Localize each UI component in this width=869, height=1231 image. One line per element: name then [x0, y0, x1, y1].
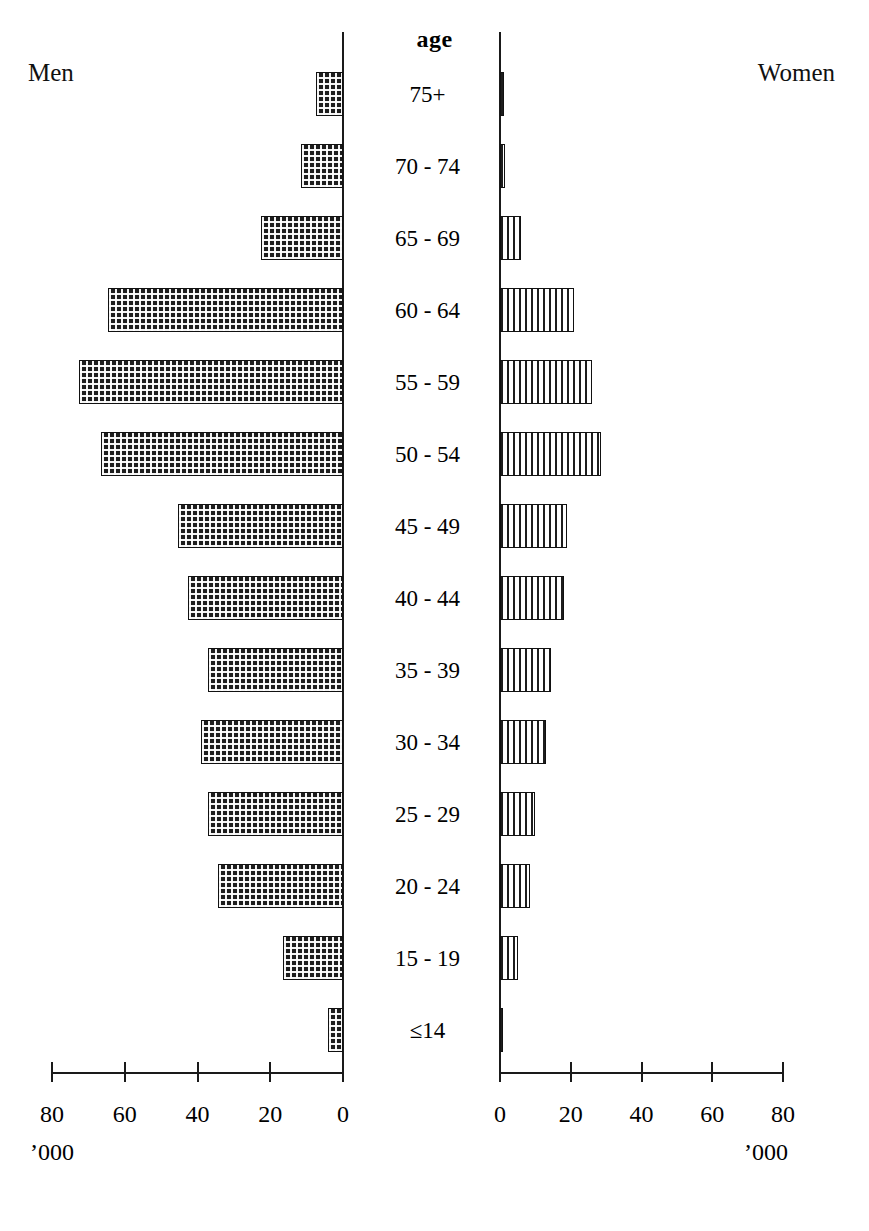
men-axis-tick: [197, 1062, 199, 1082]
age-group-label: ≤14: [355, 1019, 500, 1042]
age-group-label: 15 - 19: [355, 947, 500, 970]
pyramid-row: 35 - 39: [0, 634, 869, 706]
age-group-label: 45 - 49: [355, 515, 500, 538]
women-bar: [500, 504, 567, 548]
age-group-label: 55 - 59: [355, 371, 500, 394]
men-bar: [188, 576, 343, 620]
age-group-label: 50 - 54: [355, 443, 500, 466]
women-bar: [500, 72, 504, 116]
men-axis-tick-label: 80: [40, 1102, 64, 1126]
women-bar: [500, 720, 546, 764]
women-axis-tick: [570, 1062, 572, 1082]
women-axis-tick: [782, 1062, 784, 1082]
women-axis-tick-label: 0: [494, 1102, 506, 1126]
age-group-label: 35 - 39: [355, 659, 500, 682]
pyramid-row: 60 - 64: [0, 274, 869, 346]
women-bar: [500, 360, 592, 404]
men-bar: [218, 864, 343, 908]
men-bar: [301, 144, 343, 188]
pyramid-row: 65 - 69: [0, 202, 869, 274]
age-group-label: 75+: [355, 83, 500, 106]
age-group-label: 65 - 69: [355, 227, 500, 250]
population-pyramid-chart: age Men Women 75+70 - 7465 - 6960 - 6455…: [0, 0, 869, 1231]
men-bar: [201, 720, 343, 764]
pyramid-row: 25 - 29: [0, 778, 869, 850]
men-bar: [261, 216, 343, 260]
women-bar: [500, 288, 574, 332]
women-bar: [500, 1008, 503, 1052]
men-bar: [101, 432, 343, 476]
men-bar: [208, 648, 343, 692]
pyramid-row: 20 - 24: [0, 850, 869, 922]
men-bar: [79, 360, 343, 404]
men-bar: [208, 792, 343, 836]
women-bar: [500, 864, 530, 908]
pyramid-row: 75+: [0, 58, 869, 130]
women-axis-tick: [499, 1062, 501, 1082]
men-axis-tick: [269, 1062, 271, 1082]
men-axis-tick-label: 20: [258, 1102, 282, 1126]
women-bar: [500, 216, 521, 260]
women-bar: [500, 792, 535, 836]
men-axis-tick: [51, 1062, 53, 1082]
pyramid-row: 50 - 54: [0, 418, 869, 490]
women-axis-tick-label: 60: [700, 1102, 724, 1126]
women-bar: [500, 576, 564, 620]
women-unit-label: ’000: [744, 1140, 788, 1164]
women-bar: [500, 936, 518, 980]
men-axis-tick-label: 60: [113, 1102, 137, 1126]
men-axis-tick-label: 40: [186, 1102, 210, 1126]
pyramid-row: 30 - 34: [0, 706, 869, 778]
age-group-label: 70 - 74: [355, 155, 500, 178]
pyramid-row: 70 - 74: [0, 130, 869, 202]
women-axis-tick-label: 80: [771, 1102, 795, 1126]
women-bar: [500, 432, 601, 476]
bar-rows-container: 75+70 - 7465 - 6960 - 6455 - 5950 - 5445…: [0, 0, 869, 1231]
pyramid-row: ≤14: [0, 994, 869, 1066]
women-axis-tick-label: 20: [559, 1102, 583, 1126]
pyramid-row: 40 - 44: [0, 562, 869, 634]
women-axis-tick-label: 40: [630, 1102, 654, 1126]
pyramid-row: 15 - 19: [0, 922, 869, 994]
women-axis-tick: [641, 1062, 643, 1082]
men-bar: [108, 288, 343, 332]
age-group-label: 20 - 24: [355, 875, 500, 898]
women-bar: [500, 648, 551, 692]
men-axis-tick-label: 0: [337, 1102, 349, 1126]
age-group-label: 30 - 34: [355, 731, 500, 754]
women-bar: [500, 144, 505, 188]
age-group-label: 40 - 44: [355, 587, 500, 610]
women-axis-tick: [711, 1062, 713, 1082]
age-group-label: 60 - 64: [355, 299, 500, 322]
men-unit-label: ’000: [30, 1140, 74, 1164]
pyramid-row: 55 - 59: [0, 346, 869, 418]
men-bar: [178, 504, 344, 548]
men-bar: [316, 72, 343, 116]
pyramid-row: 45 - 49: [0, 490, 869, 562]
men-bar: [283, 936, 343, 980]
men-axis-tick: [124, 1062, 126, 1082]
men-axis-tick: [342, 1062, 344, 1082]
age-group-label: 25 - 29: [355, 803, 500, 826]
men-bar: [328, 1008, 343, 1052]
